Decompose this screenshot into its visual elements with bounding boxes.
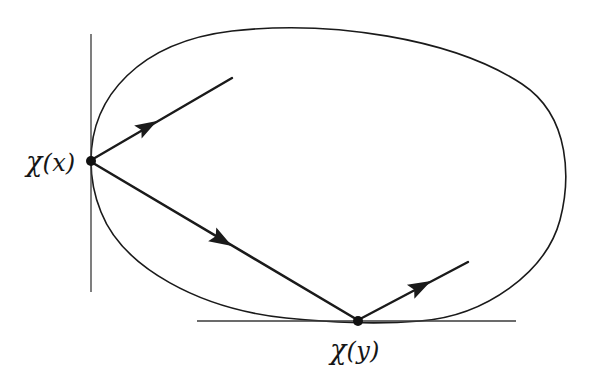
diagram-svg xyxy=(0,0,594,378)
closed-convex-curve xyxy=(91,28,566,323)
outgoing-vector-at-y xyxy=(360,262,468,319)
transport-vector-x-to-y xyxy=(93,163,356,319)
chi-arg-y: (y) xyxy=(347,337,380,365)
chi-x-point xyxy=(86,156,96,166)
figure-canvas: χ(x) χ(y) xyxy=(0,0,594,378)
label-chi-y: χ(y) xyxy=(330,334,379,365)
chi-glyph-x: χ xyxy=(26,146,43,177)
label-chi-x: χ(x) xyxy=(26,146,75,177)
incoming-vector-arrowhead xyxy=(134,114,161,138)
chi-y-point xyxy=(353,316,363,326)
chi-glyph-y: χ xyxy=(330,334,347,365)
outgoing-vector-arrowhead xyxy=(407,274,435,299)
chi-arg-x: (x) xyxy=(43,149,76,177)
transport-vector-arrowhead xyxy=(208,227,236,253)
outgoing-vector-shaft xyxy=(360,262,468,319)
